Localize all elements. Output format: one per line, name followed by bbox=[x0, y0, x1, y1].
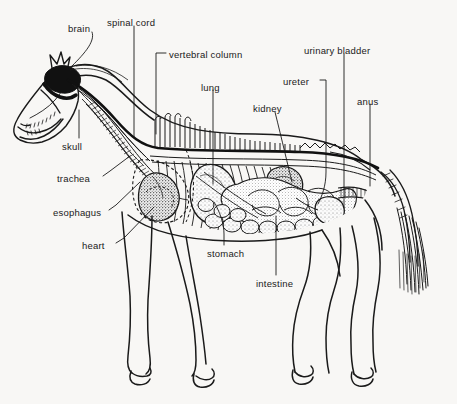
cervical-vertebrae bbox=[72, 84, 150, 166]
horse-anatomy-illustration bbox=[0, 0, 457, 404]
label-heart: heart bbox=[82, 241, 105, 251]
label-lung: lung bbox=[201, 83, 220, 93]
label-intestine: intestine bbox=[256, 279, 293, 289]
label-spinal-cord: spinal cord bbox=[107, 18, 155, 28]
leader-brain bbox=[70, 32, 93, 68]
label-trachea: trachea bbox=[57, 174, 90, 184]
heart-structure bbox=[138, 173, 179, 221]
label-brain: brain bbox=[68, 24, 90, 34]
label-kidney: kidney bbox=[253, 104, 282, 114]
trachea-structure bbox=[86, 100, 157, 180]
label-stomach: stomach bbox=[207, 249, 244, 259]
label-vertebral-column: vertebral column bbox=[169, 50, 242, 60]
label-esophagus: esophagus bbox=[53, 208, 101, 218]
label-urinary-bladder: urinary bladder bbox=[304, 46, 370, 56]
label-ureter: ureter bbox=[283, 77, 309, 87]
leader-trachea bbox=[103, 156, 130, 176]
brain-structure bbox=[44, 66, 81, 98]
tail bbox=[381, 170, 428, 294]
spinal-cord-structure bbox=[68, 80, 378, 168]
label-skull: skull bbox=[62, 142, 82, 152]
horse-anatomy-figure: brainspinal cordvertebral columnurinary … bbox=[0, 0, 457, 404]
label-anus: anus bbox=[357, 97, 378, 107]
